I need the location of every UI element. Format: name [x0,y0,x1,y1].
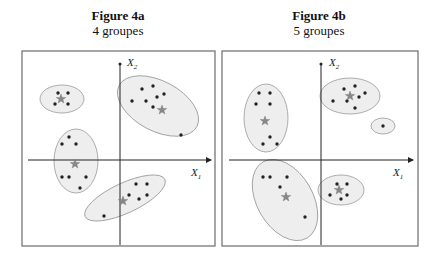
y-axis-arrow-icon [119,63,122,66]
cluster-diagrams: X2 X1 X2 X1 [0,0,439,253]
cluster-ellipse [244,84,288,152]
figure-4b-frame [222,51,418,246]
cluster-ellipse [54,129,98,193]
figure-4b-plot: X2 X1 [222,51,418,252]
figure-4a-plot: X2 X1 [22,51,215,246]
y-axis-arrow-icon [320,63,323,66]
